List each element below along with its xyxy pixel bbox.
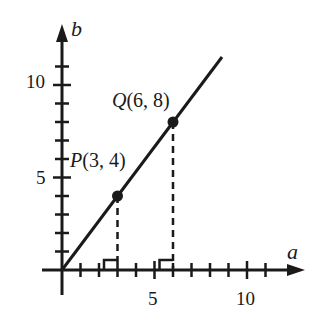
coordinate-plane: a b 5 10 5 10 P(3, 4) Q(6, 8) [0, 0, 326, 330]
b-axis-arrow-icon [56, 24, 68, 42]
point-p-label: P(3, 4) [69, 149, 126, 172]
a-axis-label: a [287, 239, 298, 264]
b-tick-label-5: 5 [36, 167, 46, 188]
a-tick-label-5: 5 [148, 288, 158, 309]
b-axis-label: b [71, 16, 82, 41]
a-axis-arrow-icon [287, 264, 305, 276]
a-tick-label-10: 10 [236, 288, 255, 309]
point-p [112, 191, 123, 202]
point-q-label: Q(6, 8) [112, 89, 170, 112]
b-tick-label-10: 10 [26, 71, 45, 92]
point-q [168, 117, 179, 128]
